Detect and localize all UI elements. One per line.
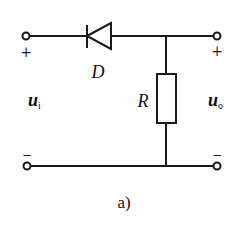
- input-plus-sign: +: [20, 44, 32, 60]
- output-voltage-symbol: u: [208, 90, 218, 110]
- diode-icon: [87, 23, 111, 49]
- output-minus-sign: −: [212, 148, 222, 162]
- output-plus-terminal: [214, 33, 221, 40]
- output-minus-terminal: [214, 163, 221, 170]
- input-voltage-symbol: u: [28, 90, 38, 110]
- resistor-icon: [157, 74, 176, 123]
- figure-caption: a): [117, 193, 130, 212]
- input-minus-terminal: [24, 163, 31, 170]
- output-voltage-label: uo: [208, 90, 223, 111]
- input-plus-terminal: [23, 33, 30, 40]
- diode-clipper-circuit: + + − − D R ui uo a): [0, 0, 235, 225]
- resistor-label: R: [137, 91, 149, 111]
- output-voltage-subscript: o: [218, 100, 223, 111]
- output-plus-sign: +: [211, 43, 223, 59]
- input-voltage-subscript: i: [38, 100, 41, 111]
- input-voltage-label: ui: [28, 90, 41, 111]
- diode-label: D: [91, 62, 105, 82]
- input-minus-sign: −: [22, 148, 32, 162]
